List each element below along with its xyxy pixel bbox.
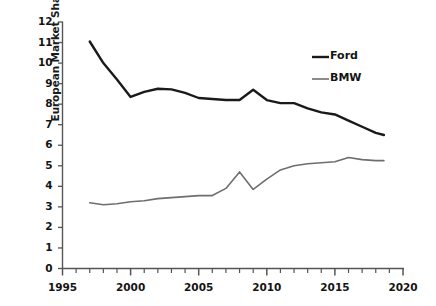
y-axis-tick-label: 7 bbox=[27, 118, 53, 130]
x-axis-tick-label: 2005 bbox=[179, 281, 219, 293]
y-axis-tick-label: 1 bbox=[27, 241, 53, 253]
y-axis-tick-label: 5 bbox=[27, 159, 53, 171]
line-chart-plot bbox=[0, 0, 436, 306]
y-axis-tick-label: 6 bbox=[27, 138, 53, 150]
series-line-bmw bbox=[90, 158, 384, 205]
x-axis-tick-label: 2000 bbox=[111, 281, 151, 293]
y-axis-tick-label: 11 bbox=[27, 36, 53, 48]
y-axis-tick-label: 9 bbox=[27, 77, 53, 89]
y-axis-tick-label: 8 bbox=[27, 97, 53, 109]
y-axis-tick-label: 3 bbox=[27, 200, 53, 212]
legend-label-ford: Ford bbox=[330, 49, 358, 62]
y-axis-tick-label: 12 bbox=[27, 15, 53, 27]
y-axis-tick-label: 0 bbox=[27, 262, 53, 274]
legend-label-bmw: BMW bbox=[330, 71, 361, 84]
y-axis-tick-label: 2 bbox=[27, 220, 53, 232]
y-axis-tick-label: 4 bbox=[27, 179, 53, 191]
x-axis-tick-label: 2015 bbox=[315, 281, 355, 293]
y-axis-tick-label: 10 bbox=[27, 56, 53, 68]
x-axis-tick-label: 2020 bbox=[383, 281, 423, 293]
x-axis-tick-label: 1995 bbox=[43, 281, 83, 293]
chart-container: European Market Share (%) 01234567891011… bbox=[0, 0, 436, 306]
x-axis-tick-label: 2010 bbox=[247, 281, 287, 293]
